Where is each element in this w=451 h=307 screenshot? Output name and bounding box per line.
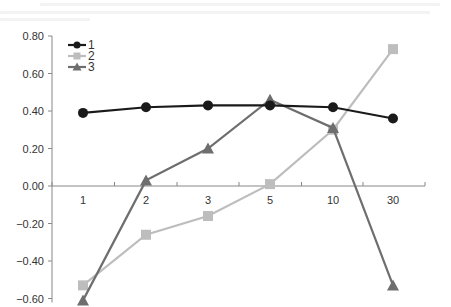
data-point-circle-icon [265, 100, 275, 110]
data-point-square-icon [203, 211, 213, 221]
data-point-square-icon [265, 179, 275, 189]
x-tick-label: 10 [327, 194, 339, 206]
x-tick-label: 1 [80, 194, 86, 206]
series-2-line [78, 44, 398, 290]
x-tick-label: 5 [267, 194, 273, 206]
legend: 123 [68, 38, 95, 74]
y-tick-label: −0.40 [16, 255, 44, 267]
data-point-square-icon [78, 280, 88, 290]
data-point-square-icon [388, 44, 398, 54]
data-point-triangle-icon [387, 279, 399, 290]
y-axis: 0.800.600.400.200.00−0.20−0.40−0.60 [16, 30, 52, 305]
y-tick-label: −0.60 [16, 293, 44, 305]
data-point-circle-icon [78, 108, 88, 118]
y-tick-label: 0.60 [23, 68, 44, 80]
y-tick-label: 0.00 [23, 180, 44, 192]
data-point-circle-icon [388, 114, 398, 124]
series-1-line [78, 100, 398, 123]
data-point-circle-icon [328, 102, 338, 112]
data-point-triangle-icon [77, 294, 89, 305]
x-tick-label: 3 [205, 194, 211, 206]
x-axis: 12351030 [52, 182, 425, 206]
data-point-circle-icon [203, 100, 213, 110]
data-point-square-icon [141, 230, 151, 240]
data-point-circle-icon [141, 102, 151, 112]
legend-label: 3 [88, 60, 95, 74]
y-tick-label: −0.20 [16, 218, 44, 230]
y-tick-label: 0.40 [23, 105, 44, 117]
y-tick-label: 0.20 [23, 143, 44, 155]
x-tick-label: 30 [387, 194, 399, 206]
legend-item-3: 3 [68, 60, 95, 74]
legend-square-icon [74, 53, 81, 60]
x-tick-label: 2 [143, 194, 149, 206]
line-chart: 0.800.600.400.200.00−0.20−0.40−0.6012351… [0, 0, 451, 307]
data-point-triangle-icon [140, 174, 152, 185]
legend-circle-icon [74, 42, 81, 49]
y-tick-label: 0.80 [23, 30, 44, 42]
